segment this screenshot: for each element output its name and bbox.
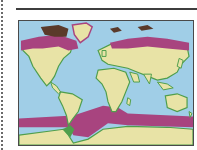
world-map	[18, 20, 194, 146]
top-horizontal-rule	[16, 8, 197, 10]
british-isles	[102, 51, 106, 57]
world-map-graphic	[19, 21, 193, 145]
madagascar	[127, 98, 131, 106]
dotted-margin-line	[1, 0, 3, 150]
